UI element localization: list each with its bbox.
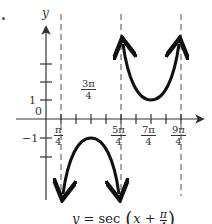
x-tick-label-3pi-over-4: 3π4 — [81, 79, 96, 101]
asymptote-lines — [61, 14, 181, 196]
y-tick-label-neg1: −1 — [22, 133, 38, 144]
lower-branch-left — [63, 138, 91, 194]
upper-branch-left — [123, 44, 151, 100]
origin-label: 0 — [35, 106, 42, 117]
y-axis-label: y — [42, 7, 49, 19]
function-caption: y = sec ( x + π 4 ) — [72, 205, 176, 224]
upper-branch-right — [151, 44, 179, 100]
secant-graph — [0, 0, 212, 224]
x-tick-label-7pi-over-4: 7π4 — [141, 125, 156, 147]
x-tick-label-9pi-over-4: 9π4 — [171, 125, 186, 147]
x-tick-label-pi-over-4: π4 — [54, 125, 63, 147]
y-tick-label-1: 1 — [29, 95, 36, 106]
x-tick-label-5pi-over-4: 5π4 — [111, 125, 126, 147]
caption-fraction: π 4 — [160, 209, 167, 224]
